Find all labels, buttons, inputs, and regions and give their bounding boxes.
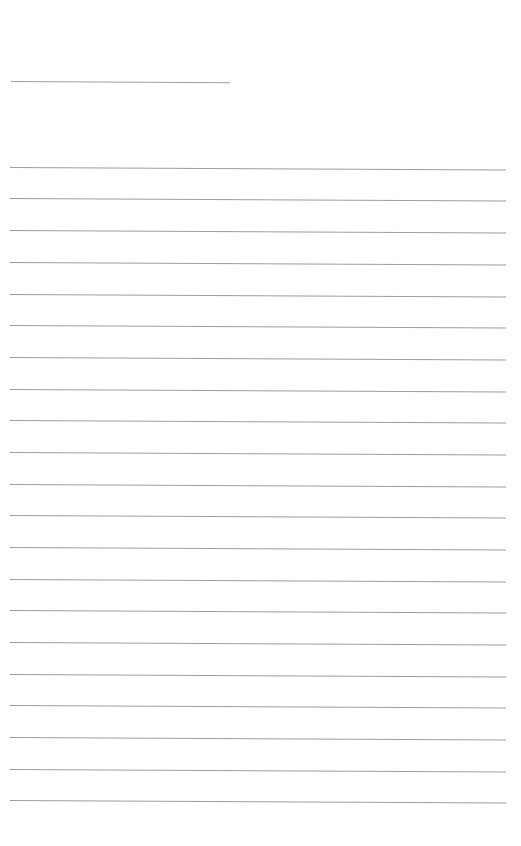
ruled-line	[10, 515, 506, 519]
ruled-line	[10, 800, 506, 804]
ruled-line	[10, 737, 506, 741]
ruled-line	[10, 705, 506, 709]
ruled-line	[10, 357, 506, 361]
ruled-line	[10, 325, 506, 329]
header-rule-line	[11, 81, 230, 83]
ruled-line	[10, 579, 506, 583]
ruled-line	[10, 769, 506, 773]
ruled-line	[10, 198, 506, 202]
ruled-line	[10, 230, 506, 234]
ruled-line	[10, 610, 506, 614]
ruled-line	[10, 420, 506, 424]
ruled-line	[10, 262, 506, 266]
ruled-line	[10, 167, 506, 171]
ruled-line	[10, 642, 506, 646]
ruled-line	[10, 389, 506, 393]
ruled-line	[10, 674, 506, 678]
ruled-line	[10, 484, 506, 488]
ruled-line	[10, 294, 506, 298]
ruled-line	[10, 452, 506, 456]
ruled-page	[0, 0, 521, 846]
ruled-line	[10, 547, 506, 551]
